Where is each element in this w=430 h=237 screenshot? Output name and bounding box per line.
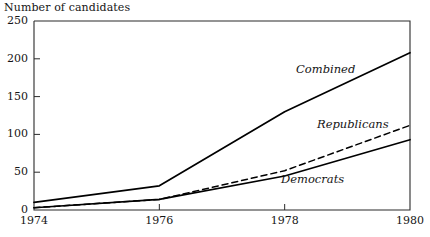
frame-border <box>34 21 410 210</box>
y-tick-label: 150 <box>0 90 28 103</box>
series-line-democrats <box>34 140 410 208</box>
plot-frame <box>34 21 410 210</box>
y-tick-label: 100 <box>0 127 28 140</box>
x-axis-ticks <box>159 204 284 210</box>
line-chart: Number of candidates 050100150200250 197… <box>0 0 430 237</box>
y-tick-label: 200 <box>0 52 28 65</box>
series-label-combined: Combined <box>296 62 355 76</box>
y-tick-label: 250 <box>0 14 28 27</box>
y-axis-ticks <box>34 59 40 172</box>
series-label-republicans: Republicans <box>317 117 389 131</box>
x-tick-label: 1978 <box>260 214 310 227</box>
x-tick-label: 1980 <box>385 214 430 227</box>
y-tick-label: 50 <box>0 165 28 178</box>
x-tick-label: 1974 <box>9 214 59 227</box>
series-label-democrats: Democrats <box>281 172 344 186</box>
x-tick-label: 1976 <box>134 214 184 227</box>
